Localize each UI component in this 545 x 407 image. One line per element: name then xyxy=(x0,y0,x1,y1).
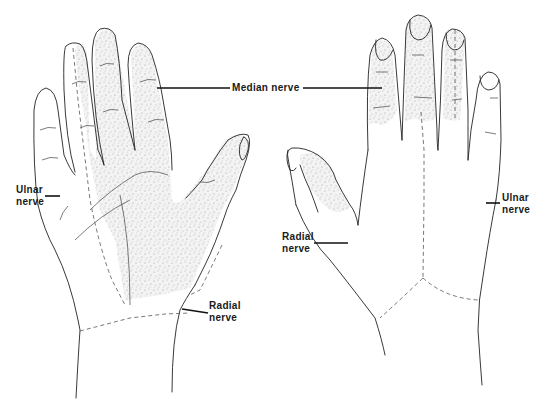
wrist-boundary-palmar xyxy=(80,313,190,331)
radial-palmar-line1: Radial xyxy=(209,300,241,312)
radial-leader-palmar xyxy=(182,309,208,313)
radial-nerve-label-dorsal: Radial nerve xyxy=(282,231,314,255)
little-finger-dorsal xyxy=(468,72,501,200)
wrist-ulnar-boundary-dorsal xyxy=(423,278,478,300)
radial-nerve-label-palmar: Radial nerve xyxy=(209,300,241,324)
ulnar-dorsal-line1: Ulnar xyxy=(502,192,530,204)
median-nerve-area-palmar xyxy=(75,29,248,300)
ulnar-nerve-label-dorsal: Ulnar nerve xyxy=(502,192,530,216)
radial-palmar-line2: nerve xyxy=(209,312,241,324)
hand-ulnar-edge-palmar xyxy=(38,205,80,398)
hand-innervation-diagram xyxy=(0,0,545,407)
hand-radial-edge-palmar xyxy=(172,285,195,392)
median-nerve-area-dorsal xyxy=(368,40,397,126)
ulnar-palmar-line2: nerve xyxy=(16,196,44,208)
median-nerve-label: Median nerve xyxy=(232,82,300,94)
palmar-hand xyxy=(34,28,250,398)
ulnar-nerve-label-palmar: Ulnar nerve xyxy=(16,184,44,208)
dorsal-hand xyxy=(287,15,501,385)
wrist-radial-boundary-dorsal xyxy=(380,278,423,318)
ulnar-dorsal-line2: nerve xyxy=(502,204,530,216)
ulnar-palmar-line1: Ulnar xyxy=(16,184,44,196)
hand-radial-edge-dorsal xyxy=(296,205,385,355)
hand-ulnar-edge-dorsal xyxy=(478,200,496,385)
radial-dorsal-line2: nerve xyxy=(282,243,314,255)
radial-dorsal-line1: Radial xyxy=(282,231,314,243)
radial-ulnar-boundary-dorsal xyxy=(421,112,424,278)
